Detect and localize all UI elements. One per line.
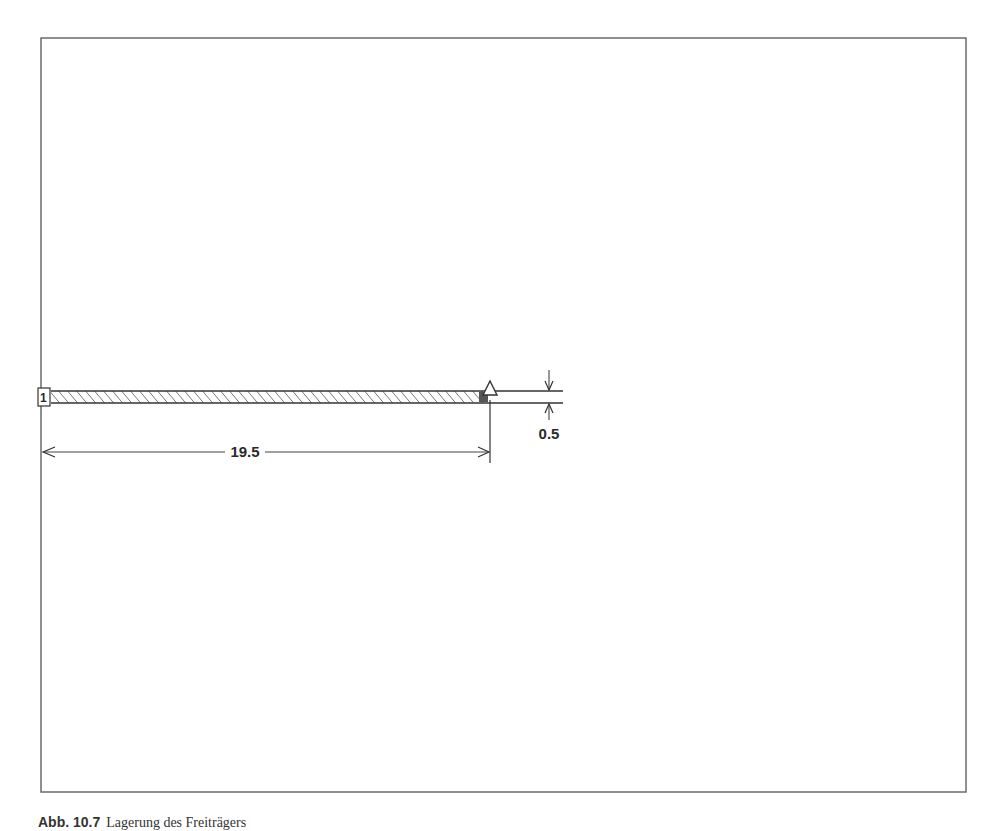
figure-number: Abb. 10.7 [38,814,100,830]
figure-caption: Abb. 10.7Lagerung des Freiträgers [38,814,246,831]
figure-caption-text: Lagerung des Freiträgers [106,815,246,830]
thickness-dimension-label: 0.5 [539,425,560,442]
support-triangle-icon [483,381,497,395]
beam-hatched-section [51,391,484,403]
length-dimension-label: 19.5 [230,443,259,460]
drawing-frame [41,38,966,792]
length-dimension: 19.5 [43,400,490,463]
node-marker: 1 [38,388,50,406]
thickness-dimension: 0.5 [539,370,560,442]
node-label: 1 [40,391,47,405]
